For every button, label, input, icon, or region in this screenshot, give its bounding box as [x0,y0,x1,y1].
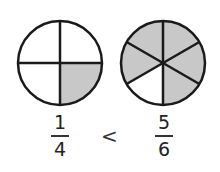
fraction-bar [155,135,173,137]
fraction-five-sixths: 5 6 [149,113,179,159]
denominator: 6 [149,140,179,159]
denominator: 4 [45,140,75,159]
less-than-symbol: < [101,124,118,148]
circle-quarters [18,21,102,105]
numerator: 1 [45,113,75,132]
fraction-bar [51,135,69,137]
circle-sixths [121,21,205,105]
fraction-one-quarter: 1 4 [45,113,75,159]
numerator: 5 [149,113,179,132]
